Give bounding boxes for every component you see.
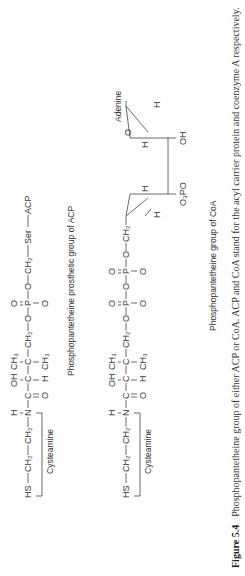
- svg-text:O: O: [23, 283, 33, 290]
- svg-text:HS: HS: [121, 485, 131, 498]
- svg-text:O: O: [40, 392, 50, 399]
- svg-text:P: P: [121, 300, 131, 306]
- svg-text:C: C: [121, 375, 131, 382]
- svg-text:OH: OH: [107, 374, 117, 388]
- svg-text:N: N: [23, 410, 33, 417]
- svg-text:CH₂: CH₂: [23, 455, 33, 472]
- svg-text:CH₂: CH₂: [23, 427, 33, 444]
- svg-text:OH: OH: [9, 374, 19, 388]
- svg-text:H: H: [138, 376, 148, 383]
- rotated-page: HS CH₂ CH₂ N H C O C H OH C CH₃ CH₃ CH₂ …: [0, 0, 245, 576]
- svg-text:CH₃: CH₃: [9, 353, 19, 370]
- svg-text:H: H: [152, 102, 162, 109]
- svg-text:OH: OH: [178, 132, 188, 146]
- svg-text:O: O: [138, 268, 148, 275]
- coa-caption: Phosphopantetheine group of CoA: [208, 200, 218, 331]
- svg-text:CH₂: CH₂: [121, 455, 131, 472]
- adenine-label: Adenine: [113, 91, 123, 122]
- svg-text:H: H: [9, 410, 19, 417]
- svg-text:N: N: [121, 410, 131, 417]
- svg-text:ACP: ACP: [23, 195, 33, 214]
- svg-text:O: O: [9, 300, 19, 307]
- svg-text:O₃PO: O₃PO: [178, 182, 188, 206]
- svg-text:O: O: [121, 283, 131, 290]
- svg-text:CH₂: CH₂: [23, 257, 33, 274]
- svg-text:H: H: [140, 186, 150, 193]
- ring-oxygen: O: [123, 129, 133, 136]
- svg-text:Ser: Ser: [23, 230, 33, 244]
- svg-text:C: C: [23, 375, 33, 382]
- svg-text:H: H: [152, 212, 162, 219]
- svg-text:CH₂: CH₂: [121, 427, 131, 444]
- svg-text:CH₃: CH₃: [40, 353, 50, 370]
- svg-text:C: C: [121, 358, 131, 365]
- svg-text:CH₂: CH₂: [121, 225, 131, 242]
- acp-caption: Phosphopantetheine prosthetic group of A…: [66, 206, 76, 376]
- svg-text:P: P: [121, 268, 131, 274]
- coa-structure: HS CH₂ CH₂ N H C O C H OH C CH₃ CH₃ CH₂ …: [107, 91, 218, 498]
- svg-text:O: O: [121, 315, 131, 322]
- svg-text:CH₃: CH₃: [107, 353, 117, 370]
- svg-text:C: C: [121, 392, 131, 399]
- svg-text:O: O: [121, 251, 131, 258]
- svg-text:CH₂: CH₂: [121, 331, 131, 348]
- svg-text:O: O: [107, 268, 117, 275]
- svg-text:C: C: [23, 392, 33, 399]
- svg-text:O: O: [107, 300, 117, 307]
- svg-text:CH₃: CH₃: [138, 353, 148, 370]
- svg-text:H: H: [107, 410, 117, 417]
- svg-text:CH₂: CH₂: [23, 331, 33, 348]
- figure-caption: Figure 5.4 Phosphopantetheine group of e…: [225, 8, 242, 568]
- svg-text:H: H: [140, 142, 150, 149]
- coa-cysteamine-label: Cysteamine: [143, 429, 153, 474]
- acp-structure: HS CH₂ CH₂ N H C O C H OH C CH₃ CH₃ CH₂ …: [9, 195, 76, 498]
- svg-text:HS: HS: [23, 485, 33, 498]
- svg-text:P: P: [23, 300, 33, 306]
- svg-text:O: O: [138, 300, 148, 307]
- chemical-structures: HS CH₂ CH₂ N H C O C H OH C CH₃ CH₃ CH₂ …: [0, 0, 245, 576]
- acp-cysteamine-label: Cysteamine: [45, 429, 55, 474]
- svg-text:H: H: [40, 376, 50, 383]
- svg-text:C: C: [23, 358, 33, 365]
- svg-text:O: O: [138, 392, 148, 399]
- svg-text:O: O: [23, 315, 33, 322]
- svg-text:O: O: [40, 300, 50, 307]
